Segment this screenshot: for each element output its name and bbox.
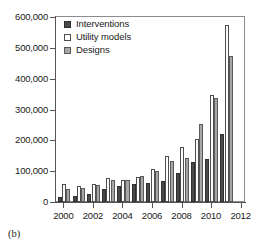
legend-swatch-utility-models-icon [64, 34, 71, 41]
bar-designs-2010 [214, 98, 218, 202]
bar-designs-2009 [199, 124, 203, 202]
x-tick-label: 2002 [78, 211, 108, 221]
legend-item-interventions: Interventions [64, 18, 131, 30]
y-tick-label: 0 [43, 197, 48, 207]
x-tick-label: 2004 [107, 211, 137, 221]
legend-item-utility-models: Utility models [64, 31, 131, 43]
y-tick-label: 500,000 [15, 43, 48, 53]
legend-label-interventions: Interventions [76, 19, 129, 29]
y-tick-label: 200,000 [15, 135, 48, 145]
y-tick-label: 600,000 [15, 12, 48, 22]
y-tick-label: 300,000 [15, 105, 48, 115]
y-tick [50, 48, 55, 49]
y-tick-label: 400,000 [15, 74, 48, 84]
y-tick [50, 79, 55, 80]
y-tick [50, 110, 55, 111]
legend-swatch-interventions-icon [64, 21, 71, 28]
x-tick [211, 203, 212, 208]
x-axis-line [55, 202, 246, 203]
x-tick-label: 2000 [48, 211, 78, 221]
x-tick [63, 203, 64, 208]
bar-designs-2002 [96, 185, 100, 202]
legend-item-designs: Designs [64, 44, 131, 56]
y-tick [50, 17, 55, 18]
x-tick [93, 203, 94, 208]
x-tick-label: 2010 [196, 211, 226, 221]
figure-caption: (b) [8, 228, 20, 240]
x-tick [182, 203, 183, 208]
bar-designs-2001 [81, 188, 85, 202]
bar-designs-2007 [170, 161, 174, 202]
legend-label-utility-models: Utility models [76, 32, 131, 42]
x-tick [241, 203, 242, 208]
bar-designs-2008 [185, 158, 189, 202]
bar-designs-2000 [66, 189, 70, 202]
legend-label-designs: Designs [76, 45, 110, 55]
y-tick [50, 140, 55, 141]
x-tick [152, 203, 153, 208]
x-tick-label: 2012 [226, 211, 256, 221]
legend-swatch-designs-icon [64, 47, 71, 54]
x-tick [122, 203, 123, 208]
bar-designs-2011 [229, 56, 233, 202]
figure-panel-b: 0100,000200,000300,000400,000500,000600,… [0, 0, 257, 250]
x-tick-label: 2006 [137, 211, 167, 221]
y-tick [50, 202, 55, 203]
bar-designs-2006 [155, 171, 159, 202]
bar-designs-2003 [111, 180, 115, 203]
x-tick-label: 2008 [167, 211, 197, 221]
y-tick-label: 100,000 [15, 166, 48, 176]
y-tick [50, 171, 55, 172]
bar-designs-2004 [125, 180, 129, 203]
bar-designs-2005 [140, 176, 144, 202]
chart-legend: Interventions Utility models Designs [62, 17, 133, 59]
